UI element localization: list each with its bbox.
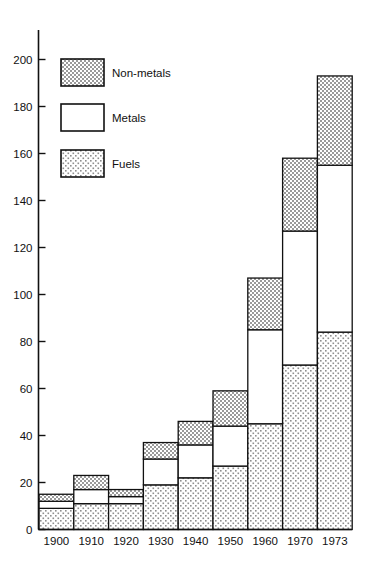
bar-segment-1973-fuels — [317, 332, 352, 529]
stacked-bar-chart: 020406080100120140160180200 190019101920… — [0, 0, 365, 569]
bar-segment-1950-non-metals — [213, 391, 248, 426]
bar-segment-1930-non-metals — [143, 443, 178, 459]
legend-label-metals: Metals — [112, 112, 146, 124]
x-tick-label-1940: 1940 — [183, 535, 209, 547]
bar-segment-1930-metals — [143, 459, 178, 485]
legend-swatch-metals — [61, 104, 104, 131]
bar-segment-1970-fuels — [283, 365, 318, 530]
bar-segment-1960-metals — [248, 330, 283, 424]
bar-segment-1940-non-metals — [178, 421, 213, 445]
legend-label-fuels: Fuels — [112, 158, 140, 170]
bar-segment-1910-fuels — [74, 504, 109, 530]
x-tick-label-1973: 1973 — [322, 535, 348, 547]
bar-segment-1940-metals — [178, 445, 213, 478]
legend-swatch-non-metals — [61, 59, 104, 86]
y-tick-label-120: 120 — [13, 242, 32, 254]
bar-segment-1973-metals — [317, 165, 352, 332]
y-tick-label-200: 200 — [13, 54, 32, 66]
x-tick-label-1920: 1920 — [113, 535, 139, 547]
bar-segment-1960-fuels — [248, 424, 283, 530]
x-tick-label-1910: 1910 — [78, 535, 104, 547]
bar-segment-1940-fuels — [178, 478, 213, 530]
bar-segment-1900-non-metals — [39, 494, 74, 501]
x-tick-label-1960: 1960 — [252, 535, 278, 547]
bar-segment-1970-non-metals — [283, 158, 318, 231]
bar-segment-1973-non-metals — [317, 76, 352, 165]
y-tick-label-20: 20 — [20, 477, 33, 489]
bar-segment-1930-fuels — [143, 485, 178, 530]
bar-segment-1900-fuels — [39, 508, 74, 529]
y-tick-label-0: 0 — [26, 524, 32, 536]
bar-segment-1920-non-metals — [109, 490, 144, 497]
x-tick-label-1950: 1950 — [218, 535, 244, 547]
y-tick-label-180: 180 — [13, 101, 32, 113]
bar-segment-1920-fuels — [109, 504, 144, 530]
bar-segment-1950-fuels — [213, 466, 248, 529]
y-tick-label-60: 60 — [20, 383, 33, 395]
legend-swatch-fuels — [61, 150, 104, 177]
x-tick-label-1970: 1970 — [287, 535, 313, 547]
chart-canvas: 020406080100120140160180200 190019101920… — [0, 0, 365, 569]
x-tick-label-1930: 1930 — [148, 535, 174, 547]
bar-segment-1970-metals — [283, 231, 318, 365]
bar-segment-1900-metals — [39, 501, 74, 508]
y-tick-label-140: 140 — [13, 195, 32, 207]
bar-segment-1950-metals — [213, 426, 248, 466]
x-tick-label-1900: 1900 — [44, 535, 70, 547]
bar-segment-1910-non-metals — [74, 475, 109, 489]
x-axis-tick-labels: 190019101920193019401950196019701973 — [44, 535, 348, 547]
legend-label-non-metals: Non-metals — [112, 67, 171, 79]
y-tick-label-160: 160 — [13, 148, 32, 160]
bar-segment-1920-metals — [109, 497, 144, 504]
y-tick-label-40: 40 — [20, 430, 33, 442]
bar-segment-1960-non-metals — [248, 278, 283, 330]
y-tick-label-100: 100 — [13, 289, 32, 301]
bar-segment-1910-metals — [74, 490, 109, 504]
y-tick-label-80: 80 — [20, 336, 33, 348]
